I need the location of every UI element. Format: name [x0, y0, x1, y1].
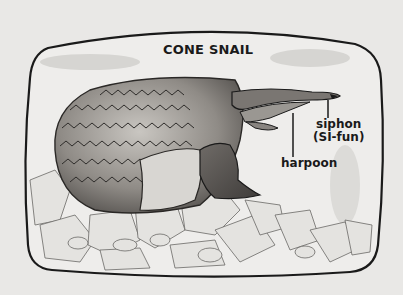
diagram-title: CONE SNAIL [163, 43, 253, 57]
diagram-canvas: CONE SNAIL siphon (SI-fun) harpoon [0, 0, 403, 295]
siphon-label: siphon (SI-fun) [313, 118, 364, 143]
siphon-label-text: siphon [313, 118, 364, 131]
siphon-pronunciation: (SI-fun) [313, 131, 364, 144]
harpoon-label: harpoon [281, 157, 337, 170]
shell-lip [140, 149, 202, 211]
